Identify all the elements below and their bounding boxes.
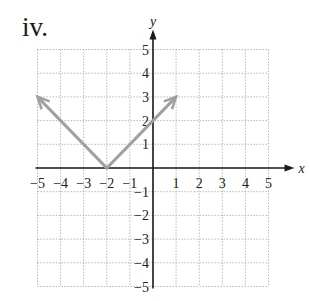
y-tick-label: −4 xyxy=(134,256,149,271)
y-tick-label: −1 xyxy=(134,185,149,200)
x-tick-label: 5 xyxy=(265,176,272,191)
y-tick-label: 5 xyxy=(142,43,149,58)
x-axis-arrow-icon xyxy=(285,165,295,172)
y-tick-label: −5 xyxy=(134,280,149,295)
x-tick-label: −2 xyxy=(99,176,114,191)
y-axis-arrow-icon xyxy=(150,30,157,40)
y-tick-label: 4 xyxy=(142,66,149,81)
y-tick-label: −2 xyxy=(134,208,149,223)
x-tick-label: 1 xyxy=(173,176,180,191)
x-tick-label: −4 xyxy=(53,176,68,191)
x-tick-label: 2 xyxy=(196,176,203,191)
coordinate-plane: xy−5−4−3−2−11234554321−1−2−3−4−5 xyxy=(0,0,310,301)
x-tick-label: −5 xyxy=(30,176,45,191)
y-tick-label: 3 xyxy=(142,90,149,105)
y-tick-label: −3 xyxy=(134,232,149,247)
y-tick-label: 1 xyxy=(142,137,149,152)
y-axis-label: y xyxy=(148,14,157,29)
x-axis-label: x xyxy=(298,161,306,176)
x-tick-label: −3 xyxy=(76,176,91,191)
x-tick-label: 3 xyxy=(219,176,226,191)
x-tick-label: 4 xyxy=(242,176,249,191)
